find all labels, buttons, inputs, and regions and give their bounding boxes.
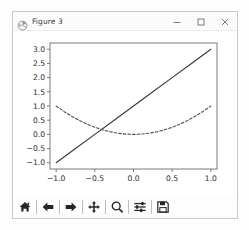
- y-tick-label: 1.0: [33, 102, 45, 111]
- y-tick-label: −0.5: [27, 144, 46, 153]
- y-tick-label: 3.0: [33, 45, 45, 54]
- y-tick-label: −1.0: [27, 158, 46, 167]
- plot-area[interactable]: −1.0−0.50.00.51.0−1.0−0.50.00.51.01.52.0…: [13, 31, 237, 196]
- window-title: Figure 3: [32, 17, 63, 26]
- y-tick-label: 0.0: [33, 130, 45, 139]
- home-button[interactable]: [17, 199, 33, 215]
- window-controls: [165, 12, 237, 31]
- toolbar-separator: [82, 200, 83, 214]
- y-tick-label: 2.5: [33, 59, 45, 68]
- forward-button[interactable]: [63, 199, 79, 215]
- y-tick-label: 1.5: [33, 88, 45, 97]
- navigation-toolbar: [13, 196, 237, 218]
- configure-subplots-button[interactable]: [132, 199, 148, 215]
- x-tick-label: 0.0: [127, 174, 139, 183]
- figure-canvas[interactable]: −1.0−0.50.00.51.0−1.0−0.50.00.51.01.52.0…: [13, 31, 237, 196]
- toolbar-separator: [36, 200, 37, 214]
- minimize-button[interactable]: [165, 12, 189, 31]
- toolbar-separator: [59, 200, 60, 214]
- save-button[interactable]: [155, 199, 171, 215]
- toolbar-separator: [128, 200, 129, 214]
- x-tick-label: 1.0: [205, 174, 217, 183]
- matplotlib-icon: [17, 16, 28, 27]
- toolbar-separator: [151, 200, 152, 214]
- y-tick-label: 0.5: [33, 116, 45, 125]
- back-button[interactable]: [40, 199, 56, 215]
- title-bar[interactable]: Figure 3: [13, 12, 237, 31]
- maximize-button[interactable]: [189, 12, 213, 31]
- x-tick-label: 0.5: [166, 174, 178, 183]
- screen: Figure 3: [0, 0, 249, 230]
- y-tick-label: 2.0: [33, 73, 45, 82]
- close-button[interactable]: [213, 12, 237, 31]
- pan-button[interactable]: [86, 199, 102, 215]
- x-tick-label: −1.0: [47, 174, 66, 183]
- toolbar-separator: [105, 200, 106, 214]
- x-tick-label: −0.5: [86, 174, 105, 183]
- figure-window: Figure 3: [12, 11, 238, 219]
- zoom-button[interactable]: [109, 199, 125, 215]
